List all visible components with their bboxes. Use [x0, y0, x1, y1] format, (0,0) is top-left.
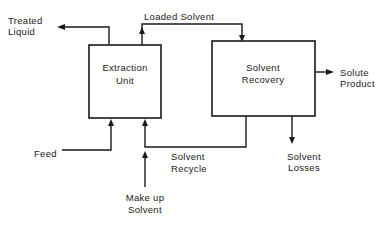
solvent-recycle-stream: Solvent Recycle [142, 116, 246, 174]
arrow-down-icon [289, 137, 295, 144]
solute-product-stream: Solute Product [315, 67, 375, 89]
solvent-losses-label-1: Solvent [287, 151, 321, 162]
arrow-up-icon [142, 119, 148, 126]
solute-product-label-2: Product [340, 78, 375, 89]
treated-liquid-label-2: Liquid [8, 26, 35, 37]
solvent-recycle-label-2: Recycle [171, 163, 207, 174]
solvent-recovery-label-1: Solvent [246, 62, 280, 73]
treated-liquid-label-1: Treated [8, 15, 43, 26]
feed-stream: Feed [34, 119, 114, 159]
extraction-unit: Extraction Unit [89, 45, 161, 118]
loaded-solvent-stream: Loaded Solvent [139, 11, 245, 45]
solvent-recycle-label-1: Solvent [171, 151, 205, 162]
makeup-solvent-label-1: Make up [126, 192, 165, 203]
solvent-recovery-unit: Solvent Recovery [212, 41, 315, 116]
makeup-solvent-stream: Make up Solvent [126, 151, 165, 215]
arrow-up-icon [139, 27, 145, 34]
treated-liquid-stream: Treated Liquid [8, 15, 109, 45]
arrow-up-icon [142, 151, 148, 158]
solvent-recovery-label-2: Recovery [242, 74, 285, 85]
solvent-losses-label-2: Losses [288, 162, 320, 173]
process-flow-diagram: Extraction Unit Solvent Recovery Treated… [0, 0, 386, 226]
extraction-unit-label-1: Extraction [102, 62, 147, 73]
loaded-solvent-label: Loaded Solvent [144, 11, 214, 22]
makeup-solvent-label-2: Solvent [128, 204, 162, 215]
arrow-left-icon [57, 24, 65, 30]
arrow-right-icon [326, 69, 334, 75]
solute-product-label-1: Solute [340, 67, 369, 78]
feed-label: Feed [34, 148, 57, 159]
solvent-losses-stream: Solvent Losses [287, 116, 321, 173]
arrow-up-icon [108, 119, 114, 126]
extraction-unit-label-2: Unit [116, 75, 134, 86]
